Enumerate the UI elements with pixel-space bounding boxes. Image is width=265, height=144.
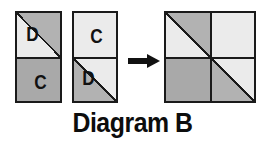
- result-bottom-left-cell: [166, 59, 210, 101]
- result-bottom-right-cell: [212, 59, 254, 101]
- result-bottom-right-fill: [212, 59, 254, 101]
- piece-2-bottom-fill: [74, 59, 116, 101]
- result-vertical-divider: [210, 13, 212, 101]
- piece-1-block: D C: [15, 11, 62, 103]
- result-block: [164, 11, 256, 103]
- result-top-left-cell: [166, 13, 210, 57]
- piece-2-top-label: C: [90, 25, 102, 46]
- piece-2-bottom-cell: D: [74, 59, 116, 101]
- result-top-right-fill: [212, 13, 254, 57]
- piece-1-bottom-cell: C: [17, 59, 60, 101]
- piece-1-top-label: D: [26, 23, 38, 44]
- piece-1-top-cell: D: [17, 13, 60, 57]
- result-bottom-left-fill: [166, 59, 210, 101]
- piece-2-top-cell: C: [74, 13, 116, 57]
- result-top-left-fill: [166, 13, 210, 57]
- piece-1-bottom-label: C: [34, 71, 46, 92]
- piece-2-bottom-label: D: [82, 67, 94, 88]
- piece-2-block: C D: [72, 11, 118, 103]
- diagram-caption: Diagram B: [11, 108, 255, 139]
- result-top-right-cell: [212, 13, 254, 57]
- right-arrow-icon: [128, 53, 160, 73]
- diagram-canvas: D C C D: [0, 0, 265, 144]
